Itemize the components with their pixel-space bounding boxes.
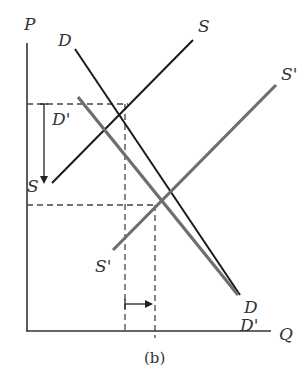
- diagram-caption: (b): [144, 349, 165, 367]
- supply-shifted-label-top: S': [281, 64, 297, 84]
- demand-label-bottom: D: [243, 297, 258, 317]
- demand-shifted-label-bottom: D': [239, 315, 258, 335]
- demand-shifted-label-top: D': [51, 109, 70, 129]
- price-axis-label: P: [23, 14, 36, 34]
- supply-curve-shifted: [113, 85, 276, 250]
- supply-shifted-label-bottom: S': [95, 256, 111, 276]
- supply-demand-diagram: P Q D D S S D' D' S' S' (b): [0, 0, 307, 379]
- supply-curve-original: [52, 40, 193, 183]
- supply-label-top: S: [198, 16, 210, 36]
- supply-label-bottom: S: [27, 176, 39, 196]
- quantity-axis-label: Q: [279, 324, 293, 344]
- demand-label-top: D: [57, 30, 72, 50]
